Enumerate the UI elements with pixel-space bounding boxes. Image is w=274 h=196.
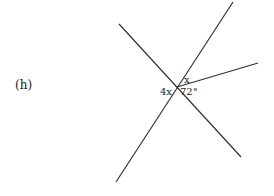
problem-label: (h) — [15, 78, 32, 92]
angle-diagram: (h) 4x x 72° — [0, 0, 274, 196]
angle-label-lower: 72° — [180, 86, 198, 97]
angle-label-upper: x — [184, 74, 190, 85]
diagram-canvas: (h) 4x x 72° — [0, 0, 274, 196]
line-b — [116, 2, 233, 182]
angle-label-left: 4x — [160, 86, 172, 97]
